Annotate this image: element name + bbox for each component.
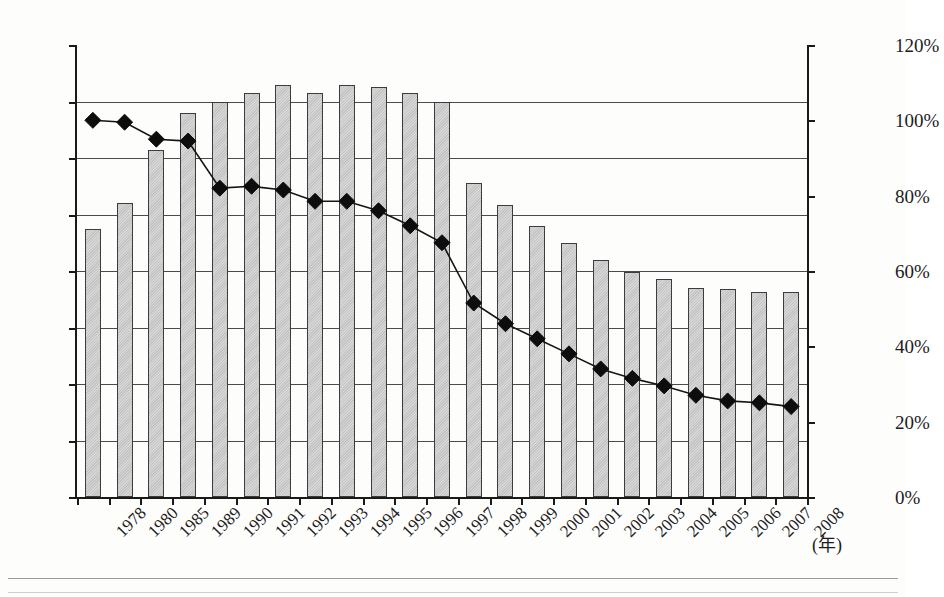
x-axis-tickmark: [299, 497, 301, 505]
y-axis-left-tickmark: [69, 384, 77, 386]
y-axis-left-tickmark: [69, 158, 77, 160]
y-axis-left-tickmark: [69, 441, 77, 443]
page-divider-rule: [8, 578, 898, 579]
bar: [339, 85, 355, 497]
bar: [244, 93, 260, 497]
bar: [117, 203, 133, 497]
x-axis-tickmark: [585, 497, 587, 505]
x-axis-tickmark: [426, 497, 428, 505]
y-axis-left-tickmark: [69, 497, 77, 499]
page-divider-rule-secondary: [8, 592, 898, 593]
chart-plot-area: 020406080100120140160 0%20%40%60%80%100%…: [75, 45, 809, 499]
bar: [751, 292, 767, 497]
x-axis-tick-label: 2004: [684, 504, 720, 540]
x-axis-tickmark: [77, 497, 79, 505]
bar: [307, 93, 323, 497]
x-axis-tick-label: 1985: [176, 504, 212, 540]
y-axis-right-tick-label: 60%: [895, 262, 944, 281]
y-axis-right-tick-label: 40%: [895, 337, 944, 356]
bar: [497, 205, 513, 497]
y-axis-right-tickmark: [807, 271, 815, 273]
y-axis-right-tick-label: 0%: [895, 488, 944, 507]
y-axis-right-tickmark: [807, 196, 815, 198]
bar: [275, 85, 291, 497]
y-axis-right-tickmark: [807, 422, 815, 424]
x-axis-tick-label: 2002: [621, 504, 657, 540]
y-axis-right-tick-label: 120%: [895, 36, 944, 55]
x-axis-tick-label: 2003: [652, 504, 688, 540]
x-axis-tickmark: [553, 497, 555, 505]
bar: [656, 279, 672, 497]
bar: [783, 292, 799, 497]
bar: [371, 87, 387, 497]
x-axis-tickmark: [109, 497, 111, 505]
x-axis-tick-label: 1999: [525, 504, 561, 540]
x-axis-tickmark: [712, 497, 714, 505]
x-axis-tickmark: [490, 497, 492, 505]
x-axis-tick-label: 1992: [303, 504, 339, 540]
y-axis-right-tick-label: 100%: [895, 111, 944, 130]
x-axis-tickmark: [394, 497, 396, 505]
y-axis-right-tickmark: [807, 346, 815, 348]
line-marker-diamond: [117, 114, 133, 130]
x-axis-tick-label: 1989: [208, 504, 244, 540]
bar: [85, 229, 101, 497]
bar: [466, 183, 482, 497]
y-axis-left-tickmark: [69, 45, 77, 47]
x-axis-tick-label: 1998: [494, 504, 530, 540]
x-axis-tickmark: [172, 497, 174, 505]
bar: [624, 272, 640, 497]
bar: [434, 102, 450, 498]
x-axis-tickmark: [680, 497, 682, 505]
x-axis-tickmark: [267, 497, 269, 505]
x-axis-tick-label: 1991: [272, 504, 308, 540]
x-axis-tickmark: [236, 497, 238, 505]
x-axis-tick-label: 2000: [557, 504, 593, 540]
x-axis-tick-label: 2007: [779, 504, 815, 540]
y-axis-left-tickmark: [69, 328, 77, 330]
y-axis-right-tickmark: [807, 45, 815, 47]
y-axis-left-tickmark: [69, 215, 77, 217]
x-axis-tickmark: [775, 497, 777, 505]
x-axis-tickmark: [331, 497, 333, 505]
x-axis-tickmark: [807, 497, 809, 505]
bar: [593, 260, 609, 497]
line-marker-diamond: [148, 131, 164, 147]
bar: [212, 102, 228, 498]
y-axis-left-tickmark: [69, 271, 77, 273]
x-axis-tickmark: [617, 497, 619, 505]
x-axis-tick-label: 1997: [462, 504, 498, 540]
x-axis-tick-label: 1980: [145, 504, 181, 540]
x-axis-tickmark: [521, 497, 523, 505]
x-axis-tick-label: 1994: [367, 504, 403, 540]
x-axis-tick-label: 1990: [240, 504, 276, 540]
x-axis-tick-label: 2006: [748, 504, 784, 540]
y-axis-left-tickmark: [69, 102, 77, 104]
y-axis-right-tickmark: [807, 120, 815, 122]
x-axis-tickmark: [140, 497, 142, 505]
x-axis-tickmark: [458, 497, 460, 505]
x-axis-unit-label: (年): [812, 530, 842, 556]
x-axis-tick-label: 1995: [398, 504, 434, 540]
bar: [529, 226, 545, 497]
x-axis-tickmark: [363, 497, 365, 505]
y-axis-right-tick-label: 80%: [895, 186, 944, 205]
bar: [148, 150, 164, 497]
x-axis-tick-label: 2005: [716, 504, 752, 540]
x-axis-tick-label: 1993: [335, 504, 371, 540]
x-axis-tick-label: 1978: [113, 504, 149, 540]
x-axis-tickmark: [204, 497, 206, 505]
bar: [561, 243, 577, 497]
bar: [688, 288, 704, 497]
line-marker-diamond: [85, 112, 101, 128]
bar: [720, 289, 736, 497]
x-axis-tickmark: [648, 497, 650, 505]
x-axis-tick-label: 1996: [430, 504, 466, 540]
y-axis-right-tick-label: 20%: [895, 412, 944, 431]
x-axis-tickmark: [744, 497, 746, 505]
bar: [180, 113, 196, 497]
bar: [402, 93, 418, 497]
x-axis-tick-label: 2001: [589, 504, 625, 540]
